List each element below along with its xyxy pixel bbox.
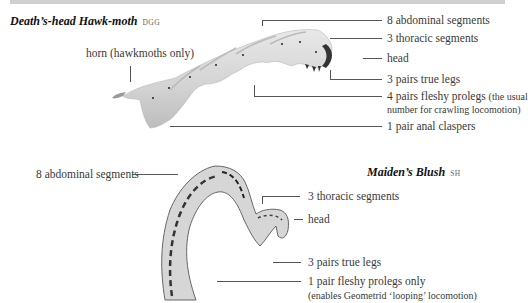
- leader-blush-thoracic-tick: [262, 196, 263, 204]
- label-horn: horn (hawkmoths only): [86, 47, 194, 60]
- blush-title: Maiden’s BlushSH: [367, 165, 461, 180]
- hawkmoth-title: Death’s-head Hawk-mothDGG: [10, 14, 160, 29]
- leader-head: [363, 58, 382, 59]
- label-blush-head: head: [308, 213, 330, 226]
- leader-prolegs-tick: [254, 85, 255, 96]
- label-blush-prolegs-note: (enables Geometrid ‘looping’ locomotion): [308, 290, 477, 302]
- label-blush-thoracic: 3 thoracic segments: [308, 190, 399, 203]
- label-blush-abdominal: 8 abdominal segments: [36, 168, 139, 181]
- leader-blush-thoracic: [262, 196, 300, 197]
- leader-thoracic: [330, 38, 382, 39]
- hawkmoth-caterpillar-icon: [112, 29, 332, 128]
- leader-true-legs: [330, 79, 382, 80]
- leader-horn: [130, 66, 131, 82]
- label-thoracic: 3 thoracic segments: [387, 32, 478, 45]
- species-name: Maiden’s Blush: [367, 165, 445, 179]
- leader-abdominal: [262, 20, 382, 21]
- leader-prolegs: [254, 96, 382, 97]
- maidens-blush-caterpillar-icon: [162, 166, 289, 300]
- species-code: SH: [450, 169, 461, 178]
- leader-blush-head: [294, 219, 303, 220]
- leader-blush-true-legs: [273, 262, 301, 263]
- label-blush-prolegs: 1 pair fleshy prolegs only: [308, 275, 426, 288]
- species-code: DGG: [142, 18, 160, 27]
- label-true-legs: 3 pairs true legs: [387, 73, 460, 86]
- label-abdominal: 8 abdominal segments: [387, 14, 490, 27]
- leader-true-legs-tick: [330, 70, 331, 79]
- label-blush-true-legs: 3 pairs true legs: [308, 256, 381, 269]
- label-prolegs: 4 pairs fleshy prolegs (the usual: [387, 90, 528, 103]
- leader-claspers: [170, 126, 382, 127]
- label-head: head: [387, 52, 409, 65]
- label-prolegs-note: number for crawling locomotion): [387, 104, 521, 116]
- species-name: Death’s-head Hawk-moth: [10, 14, 137, 28]
- leader-blush-abdominal: [132, 174, 178, 175]
- label-claspers: 1 pair anal claspers: [387, 120, 475, 133]
- leader-blush-prolegs: [217, 281, 301, 282]
